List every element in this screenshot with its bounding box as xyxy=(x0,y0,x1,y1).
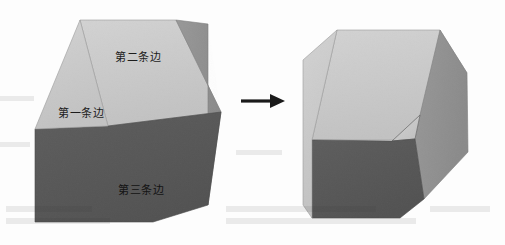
result-cube xyxy=(303,30,468,218)
figure-canvas xyxy=(0,0,505,245)
edge-label-second: 第二条边 xyxy=(115,52,161,63)
cube-grain-overlay xyxy=(303,30,468,218)
transformation-arrow xyxy=(241,94,285,108)
cube-edge-transformation-figure: 第一条边 第二条边 第三条边 xyxy=(0,0,505,245)
edge-label-first: 第一条边 xyxy=(58,108,104,119)
edge-label-third: 第三条边 xyxy=(118,185,164,196)
arrow-head xyxy=(270,94,285,108)
